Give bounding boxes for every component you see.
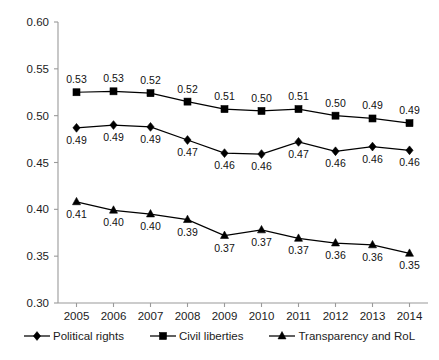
- data-point-label: 0.51: [214, 90, 235, 102]
- chart-series-group: [73, 88, 414, 256]
- data-point-label: 0.46: [251, 160, 272, 172]
- y-axis-tick-label: 0.50: [27, 110, 49, 122]
- y-axis-tick-label: 0.60: [27, 16, 49, 28]
- chart-plot-area: 0.600.550.500.450.400.350.30 20052006200…: [0, 0, 439, 360]
- data-point-marker: [73, 89, 80, 96]
- series-line: [77, 91, 410, 123]
- data-point-label: 0.49: [399, 104, 420, 116]
- data-point-label: 0.37: [214, 242, 235, 254]
- data-point-marker: [73, 123, 80, 132]
- data-point-marker: [147, 123, 154, 132]
- data-point-label: 0.53: [103, 72, 124, 84]
- data-point-label: 0.47: [177, 146, 198, 158]
- x-axis-tick-label: 2014: [397, 310, 423, 322]
- data-point-label: 0.49: [362, 99, 383, 111]
- data-point-label: 0.52: [140, 74, 161, 86]
- y-axis-tick-labels: 0.600.550.500.450.400.350.30: [27, 16, 49, 309]
- data-point-label: 0.39: [177, 226, 198, 238]
- x-axis-tick-label: 2013: [360, 310, 386, 322]
- data-point-marker: [221, 149, 228, 158]
- y-axis-tick-label: 0.35: [27, 250, 49, 262]
- data-point-label: 0.50: [325, 97, 346, 109]
- data-point-label: 0.37: [288, 244, 309, 256]
- data-point-marker: [110, 121, 117, 130]
- line-chart: 0.600.550.500.450.400.350.30 20052006200…: [0, 0, 439, 360]
- data-point-label: 0.40: [103, 216, 124, 228]
- data-point-marker: [258, 107, 265, 114]
- legend-item-civil-liberties[interactable]: Civil liberties: [150, 330, 244, 342]
- data-point-label: 0.40: [140, 220, 161, 232]
- legend-item-political-rights[interactable]: Political rights: [24, 330, 124, 342]
- data-point-marker: [258, 150, 265, 159]
- x-axis-tick-label: 2006: [101, 310, 127, 322]
- data-point-label: 0.36: [362, 251, 383, 263]
- data-point-label: 0.47: [288, 148, 309, 160]
- data-point-marker: [258, 225, 266, 232]
- x-axis-tick-label: 2009: [212, 310, 238, 322]
- data-point-marker: [369, 240, 377, 247]
- data-point-label: 0.41: [66, 208, 87, 220]
- data-point-label: 0.50: [251, 92, 272, 104]
- legend-marker-triangle-icon: [269, 330, 295, 342]
- chart-data-labels: 0.490.490.490.470.460.460.470.460.460.46…: [66, 72, 420, 271]
- x-axis-tick-label: 2011: [286, 310, 311, 322]
- series-line: [77, 202, 410, 254]
- data-point-label: 0.52: [177, 83, 198, 95]
- data-point-label: 0.36: [325, 249, 346, 261]
- data-point-marker: [369, 115, 376, 122]
- data-point-marker: [295, 137, 302, 146]
- chart-legend: Political rightsCivil libertiesTranspare…: [0, 330, 439, 342]
- data-point-marker: [184, 136, 191, 145]
- data-point-label: 0.49: [66, 134, 87, 146]
- data-point-marker: [332, 112, 339, 119]
- data-point-marker: [406, 146, 413, 155]
- data-point-label: 0.51: [288, 90, 309, 102]
- data-point-label: 0.37: [251, 236, 272, 248]
- data-point-label: 0.49: [103, 131, 124, 143]
- legend-item-label: Political rights: [53, 330, 124, 342]
- y-axis-tick-label: 0.45: [27, 157, 49, 169]
- legend-item-label: Transparency and RoL: [298, 330, 415, 342]
- data-point-label: 0.46: [362, 153, 383, 165]
- x-axis-tick-label: 2005: [64, 310, 90, 322]
- data-point-marker: [295, 106, 302, 113]
- legend-item-label: Civil liberties: [179, 330, 244, 342]
- data-point-marker: [110, 88, 117, 95]
- y-axis-tick-label: 0.30: [27, 297, 49, 309]
- data-point-marker: [73, 197, 81, 204]
- data-point-label: 0.46: [399, 156, 420, 168]
- legend-marker-square-icon: [150, 330, 176, 342]
- data-point-label: 0.53: [66, 73, 87, 85]
- data-point-label: 0.35: [399, 259, 420, 271]
- series-line: [77, 125, 410, 154]
- x-axis-tick-label: 2008: [175, 310, 201, 322]
- x-axis-tick-label: 2012: [323, 310, 349, 322]
- x-axis-tick-labels: 2005200620072008200920102011201220132014: [64, 310, 423, 322]
- data-point-label: 0.46: [325, 157, 346, 169]
- x-axis-tick-label: 2010: [249, 310, 275, 322]
- data-point-label: 0.49: [140, 133, 161, 145]
- data-point-marker: [147, 90, 154, 97]
- legend-marker-diamond-icon: [24, 330, 50, 342]
- data-point-label: 0.46: [214, 159, 235, 171]
- x-axis-tick-label: 2007: [138, 310, 164, 322]
- data-point-marker: [221, 106, 228, 113]
- data-point-marker: [406, 120, 413, 127]
- y-axis-tick-label: 0.55: [27, 63, 49, 75]
- legend-item-transparency-and-rol[interactable]: Transparency and RoL: [269, 330, 415, 342]
- data-point-marker: [184, 98, 191, 105]
- data-point-marker: [369, 142, 376, 151]
- data-point-marker: [332, 147, 339, 156]
- y-axis-tick-label: 0.40: [27, 203, 49, 215]
